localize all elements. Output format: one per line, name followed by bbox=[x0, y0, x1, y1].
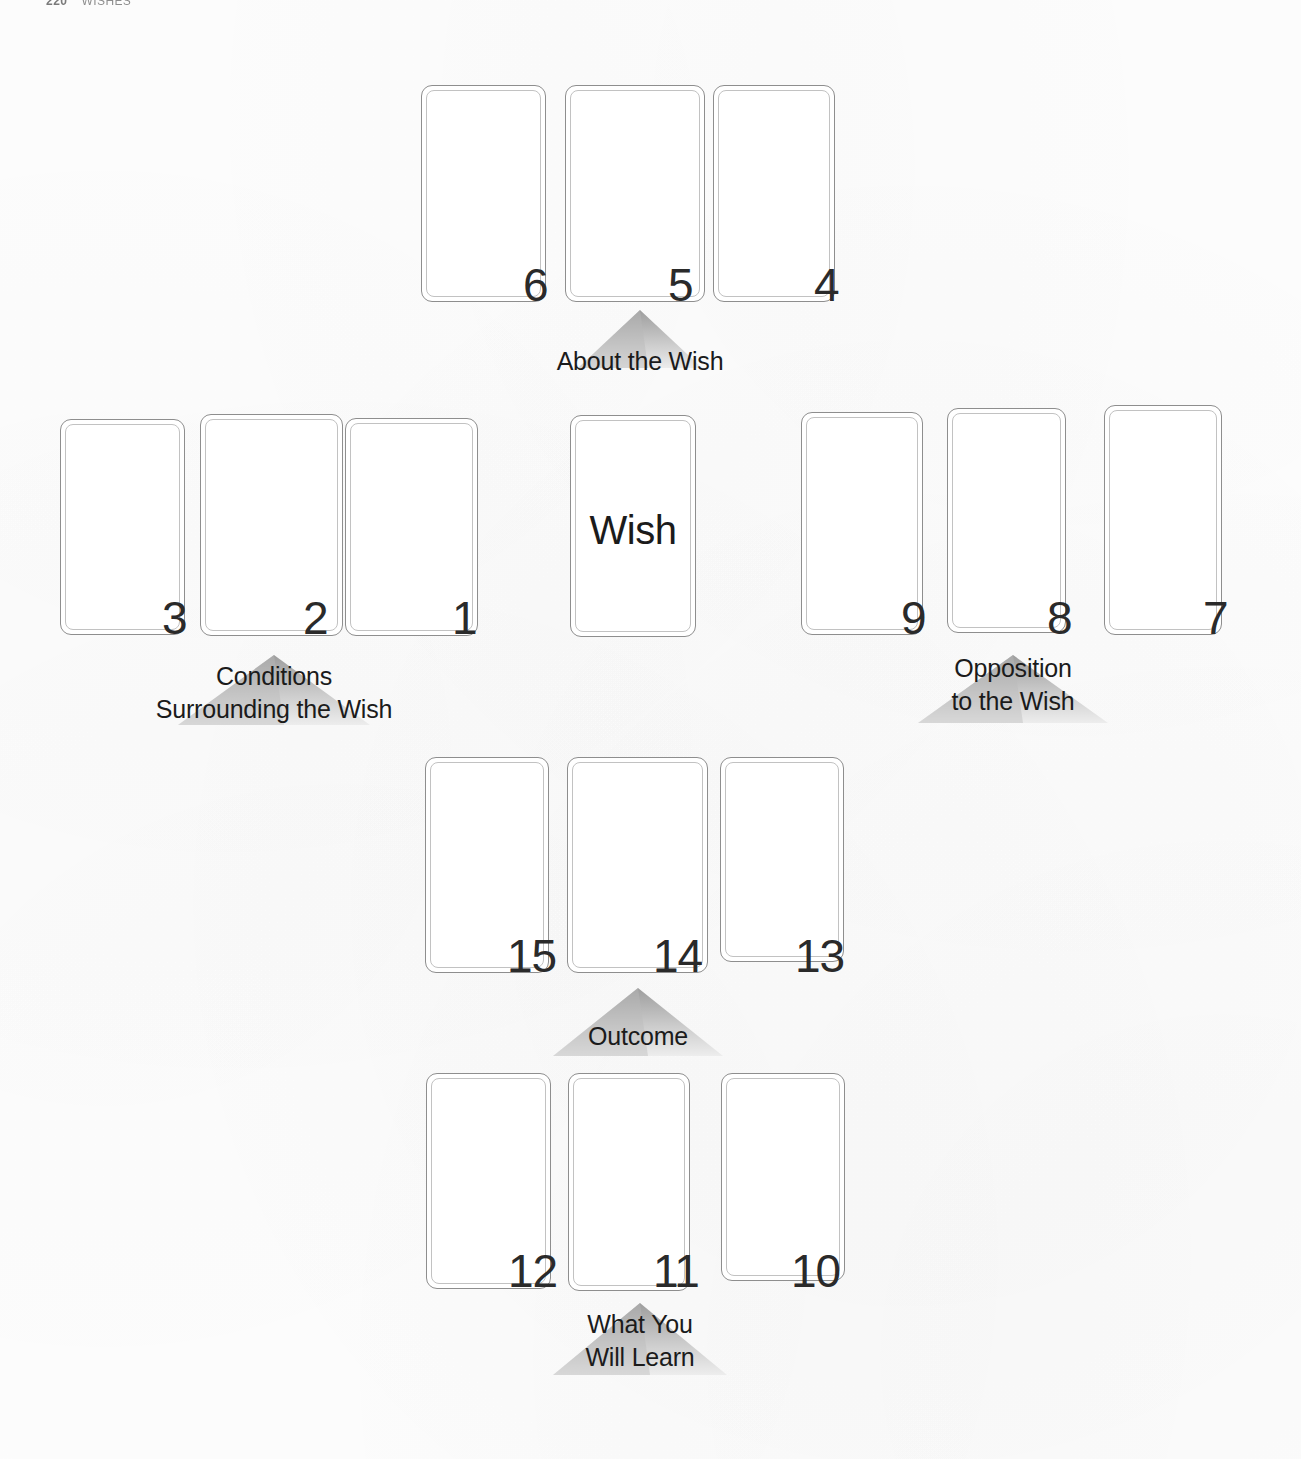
card-wish-center[interactable]: Wish bbox=[570, 415, 696, 637]
position-number-3: 3 bbox=[162, 595, 187, 641]
card-inner-border bbox=[725, 762, 839, 957]
group-label-about-the-wish: About the Wish bbox=[490, 345, 790, 378]
group-label-conditions-surrounding-the-wish: Conditions Surrounding the Wish bbox=[124, 660, 424, 726]
position-number-10: 10 bbox=[791, 1248, 840, 1294]
position-number-14: 14 bbox=[653, 933, 702, 979]
group-label-outcome: Outcome bbox=[488, 1020, 788, 1053]
wish-card-label: Wish bbox=[571, 508, 695, 553]
group-label-line: Opposition bbox=[863, 652, 1163, 685]
page-running-header: 220 WISHES bbox=[46, 0, 131, 8]
position-number-13: 13 bbox=[795, 933, 844, 979]
position-number-5: 5 bbox=[668, 262, 693, 308]
position-number-7: 7 bbox=[1203, 595, 1228, 641]
group-label-opposition-to-the-wish: Opposition to the Wish bbox=[863, 652, 1163, 718]
position-number-6: 6 bbox=[523, 262, 548, 308]
group-label-what-you-will-learn: What You Will Learn bbox=[490, 1308, 790, 1374]
group-label-line: to the Wish bbox=[863, 685, 1163, 718]
position-number-1: 1 bbox=[452, 595, 477, 641]
group-label-line: What You bbox=[490, 1308, 790, 1341]
group-label-line: Outcome bbox=[488, 1020, 788, 1053]
group-label-line: About the Wish bbox=[490, 345, 790, 378]
running-head-title: WISHES bbox=[82, 0, 132, 8]
page-folio: 220 bbox=[46, 0, 68, 8]
card-inner-border bbox=[952, 413, 1061, 628]
position-number-2: 2 bbox=[303, 595, 328, 641]
wish-spread-diagram: 220 WISHES 6 5 4 About the Wish bbox=[0, 0, 1301, 1459]
position-number-12: 12 bbox=[508, 1248, 557, 1294]
position-number-4: 4 bbox=[814, 262, 839, 308]
card-inner-border bbox=[1109, 410, 1217, 630]
position-number-8: 8 bbox=[1047, 595, 1072, 641]
group-label-line: Conditions bbox=[124, 660, 424, 693]
group-label-line: Surrounding the Wish bbox=[124, 693, 424, 726]
position-number-11: 11 bbox=[653, 1248, 699, 1294]
position-number-15: 15 bbox=[507, 933, 556, 979]
group-label-line: Will Learn bbox=[490, 1341, 790, 1374]
position-number-9: 9 bbox=[901, 595, 926, 641]
